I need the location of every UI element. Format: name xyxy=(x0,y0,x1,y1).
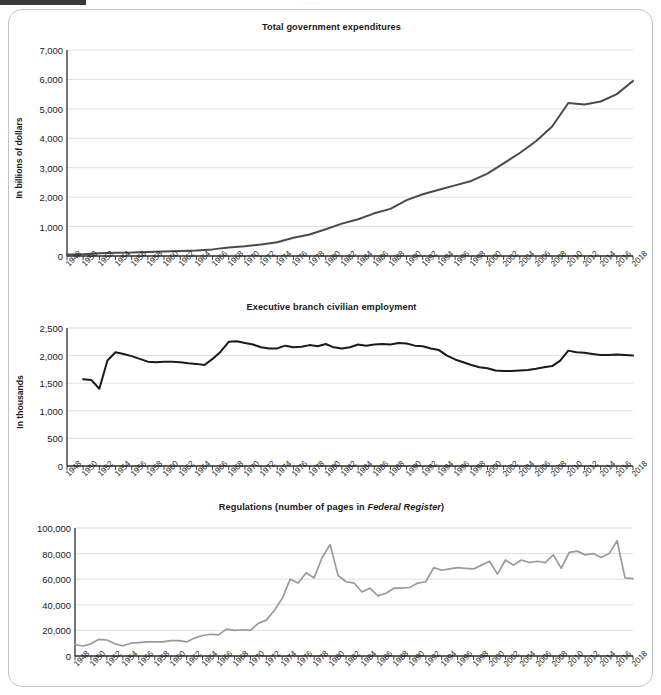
chart3-title: Regulations (number of pages in Federal … xyxy=(9,502,654,512)
chart2-y-tick-label: 1,500 xyxy=(11,378,63,389)
chart1-y-tick-label: 1,000 xyxy=(11,221,63,232)
cropped-header-bar xyxy=(0,0,86,5)
chart3-y-tick-label: 100,000 xyxy=(19,523,71,534)
cropped-header-text: · · · · · · xyxy=(300,0,640,5)
chart3-title-suffix: ) xyxy=(441,502,444,512)
chart3-y-tick-label: 80,000 xyxy=(19,548,71,559)
chart1-y-tick-label: 2,000 xyxy=(11,192,63,203)
chart3-y-tick-label: 20,000 xyxy=(19,625,71,636)
chart2-y-tick-label: 1,000 xyxy=(11,405,63,416)
chart3-y-tick-label: 0 xyxy=(19,651,71,662)
chart1-svg xyxy=(67,50,633,256)
chart2-y-tick-label: 0 xyxy=(11,461,63,472)
chart1-title: Total government expenditures xyxy=(9,22,654,32)
chart-executive-branch-civilian-employment: Executive branch civilian employment In … xyxy=(9,302,654,500)
chart1-y-tick-label: 6,000 xyxy=(11,74,63,85)
chart3-title-publication: Federal Register xyxy=(367,502,441,512)
chart3-y-tick-label: 60,000 xyxy=(19,574,71,585)
chart2-y-tick-label: 500 xyxy=(11,433,63,444)
chart1-y-tick-label: 7,000 xyxy=(11,45,63,56)
chart2-svg xyxy=(67,328,633,466)
figure-panel: Total government expenditures In billion… xyxy=(8,9,653,687)
chart3-title-prefix: Regulations (number of pages in xyxy=(219,502,368,512)
chart2-y-tick-label: 2,500 xyxy=(11,323,63,334)
chart-total-government-expenditures: Total government expenditures In billion… xyxy=(9,22,654,294)
chart3-plot-area xyxy=(75,528,633,656)
chart1-plot-area xyxy=(67,50,633,256)
chart2-data-line xyxy=(83,341,633,388)
chart1-y-tick-label: 5,000 xyxy=(11,103,63,114)
chart1-y-axis-label: In billions of dollars xyxy=(14,78,24,238)
chart2-plot-area xyxy=(67,328,633,466)
chart1-y-tick-label: 3,000 xyxy=(11,162,63,173)
chart1-y-tick-label: 0 xyxy=(11,251,63,262)
chart3-y-tick-label: 40,000 xyxy=(19,599,71,610)
chart3-svg xyxy=(75,528,633,656)
chart2-title: Executive branch civilian employment xyxy=(9,302,654,312)
chart1-y-tick-label: 4,000 xyxy=(11,133,63,144)
chart-regulations-federal-register: Regulations (number of pages in Federal … xyxy=(9,502,654,680)
chart2-y-tick-label: 2,000 xyxy=(11,350,63,361)
